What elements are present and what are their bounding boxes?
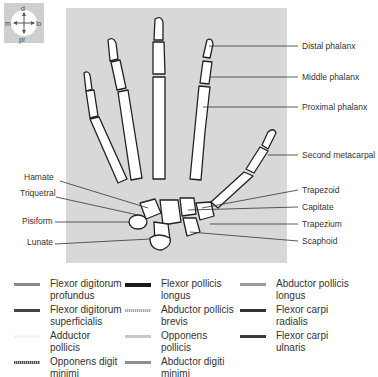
- legend-swatch: [14, 309, 40, 312]
- label-scaphoid: Scaphoid: [302, 236, 337, 246]
- legend-text-line2: longus: [161, 290, 190, 301]
- legend-text-line2: superficialis: [50, 316, 102, 327]
- legend-swatch: [125, 335, 151, 338]
- label-proximal-phalanx: Proximal phalanx: [302, 102, 367, 112]
- legend-text-line2: longus: [276, 290, 305, 301]
- legend-item-flexor-digitorum-profundus: Flexor digitorumprofundus: [14, 278, 134, 302]
- label-hamate: Hamate: [24, 172, 54, 182]
- legend-swatch: [125, 361, 151, 364]
- legend-text-line1: Adductor: [50, 330, 90, 341]
- label-trapezoid: Trapezoid: [302, 185, 339, 195]
- legend-text-line2: minimi: [161, 368, 190, 377]
- label-second-metacarpal: Second metacarpal: [302, 150, 375, 160]
- label-triquetral: Triquetral: [20, 188, 56, 198]
- legend-text-line1: Abductor pollicis: [161, 304, 234, 315]
- legend-text-line1: Flexor carpi: [276, 330, 328, 341]
- legend-text-line1: Flexor digitorum: [50, 278, 122, 289]
- legend-item-abductor-digiti-minimi: Abductor digitiminimi: [125, 356, 245, 377]
- index-finger-bones: [190, 39, 213, 180]
- legend-text-line2: ulnaris: [276, 342, 305, 353]
- legend-text-line1: Flexor carpi: [276, 304, 328, 315]
- legend-swatch: [240, 335, 266, 338]
- legend-swatch: [125, 283, 151, 287]
- legend-item-flexor-digitorum-superficialis: Flexor digitorumsuperficialis: [14, 304, 134, 328]
- legend-text-line2: pollicis: [50, 342, 80, 353]
- legend-item-adductor-pollicis: Adductorpollicis: [14, 330, 134, 354]
- legend-item-abductor-pollicis-longus: Abductor pollicislongus: [240, 278, 360, 302]
- legend-text-line2: radialis: [276, 316, 308, 327]
- legend-swatch: [240, 309, 266, 312]
- legend-text-line1: Abductor digiti: [161, 356, 224, 367]
- legend-text-line1: Opponens: [161, 330, 207, 341]
- legend-item-flexor-carpi-ulnaris: Flexor carpiulnaris: [240, 330, 360, 354]
- legend-item-flexor-carpi-radialis: Flexor carpiradialis: [240, 304, 360, 328]
- middle-finger-bones: [153, 18, 165, 179]
- label-trapezium: Trapezium: [302, 219, 342, 229]
- legend-text-line2: profundus: [50, 290, 94, 301]
- legend-item-abductor-pollicis-brevis: Abductor pollicisbrevis: [125, 304, 245, 328]
- label-lunate: Lunate: [27, 237, 53, 247]
- label-middle-phalanx: Middle phalanx: [302, 72, 359, 82]
- legend-text-line2: pollicis: [161, 342, 191, 353]
- label-pisiform: Pisiform: [22, 216, 53, 226]
- legend-text-line2: brevis: [161, 316, 188, 327]
- legend-item-flexor-pollicis-longus: Flexor pollicislongus: [125, 278, 245, 302]
- legend-swatch: [14, 283, 40, 286]
- legend-item-opponens-digiti-minimi: Opponens digitminimi: [14, 356, 134, 377]
- legend-swatch: [14, 335, 40, 338]
- legend-swatch: [125, 309, 151, 312]
- legend-swatch: [240, 283, 266, 286]
- label-capitate: Capitate: [302, 202, 334, 212]
- legend-text-line1: Flexor digitorum: [50, 304, 122, 315]
- legend-text-line2: minimi: [50, 368, 79, 377]
- legend-text-line1: Opponens digit: [50, 356, 117, 367]
- legend-text-line1: Flexor pollicis: [161, 278, 222, 289]
- legend-text-line1: Abductor pollicis: [276, 278, 349, 289]
- legend-swatch: [14, 361, 40, 364]
- label-distal-phalanx: Distal phalanx: [302, 41, 355, 51]
- legend-item-opponens-pollicis: Opponenspollicis: [125, 330, 245, 354]
